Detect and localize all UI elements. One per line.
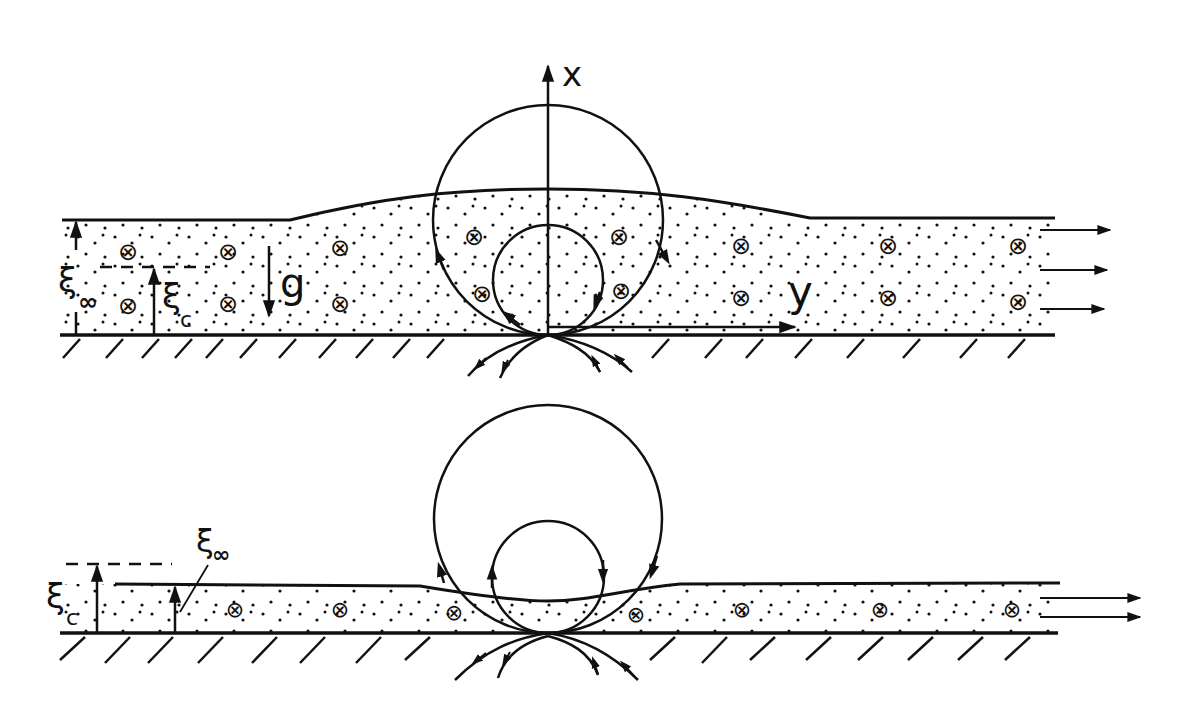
svg-text:⊗: ⊗	[1003, 597, 1021, 622]
x-axis-label: x	[562, 54, 582, 94]
xi-c-subscript: c	[66, 605, 78, 630]
svg-text:⊗: ⊗	[609, 223, 629, 251]
svg-text:⊗: ⊗	[731, 284, 751, 312]
svg-text:⊗: ⊗	[330, 290, 350, 318]
xi-inf-subscript: ∞	[78, 288, 98, 316]
streamline-arrow	[624, 665, 634, 676]
outer-circle-arrow-left	[440, 569, 444, 583]
svg-text:⊗: ⊗	[226, 597, 244, 622]
svg-text:⊗: ⊗	[445, 600, 463, 625]
svg-text:⊗: ⊗	[464, 223, 484, 251]
y-axis-label: y	[788, 267, 813, 316]
diagram-canvas: x y ⊗ ⊗ ⊗ ⊗ ⊗ ⊗ ⊗ ⊗	[0, 0, 1187, 713]
wall-hatching	[63, 339, 1025, 358]
svg-text:⊗: ⊗	[331, 597, 349, 622]
svg-text:⊗: ⊗	[627, 602, 645, 627]
svg-text:⊗: ⊗	[472, 280, 492, 308]
bottom-panel: ⊗ ⊗ ⊗ ⊗ ⊗ ⊗ ⊗ ξ c ξ ∞	[46, 405, 1140, 680]
svg-text:⊗: ⊗	[218, 290, 238, 318]
gravity-label: g	[280, 260, 305, 306]
svg-text:⊗: ⊗	[118, 292, 138, 320]
xi-c-subscript: c	[180, 307, 192, 332]
svg-text:⊗: ⊗	[118, 238, 138, 266]
svg-text:⊗: ⊗	[1008, 232, 1028, 260]
xi-c-label: ξ	[162, 276, 181, 316]
fluid-particles	[60, 185, 1060, 335]
wall-streamlines	[468, 335, 632, 378]
streamline-arrow	[478, 358, 486, 366]
svg-text:⊗: ⊗	[733, 597, 751, 622]
svg-text:⊗: ⊗	[330, 234, 350, 262]
streamline-arrow	[594, 360, 600, 372]
svg-text:⊗: ⊗	[611, 277, 631, 305]
svg-text:⊗: ⊗	[731, 232, 751, 260]
outer-streamline-circle	[434, 405, 662, 633]
svg-text:⊗: ⊗	[1008, 288, 1028, 316]
svg-text:⊗: ⊗	[218, 238, 238, 266]
svg-text:⊗: ⊗	[878, 284, 898, 312]
svg-text:⊗: ⊗	[878, 232, 898, 260]
svg-text:⊗: ⊗	[871, 597, 889, 622]
xi-inf-label: ξ	[58, 260, 77, 300]
wall-hatching	[60, 637, 1030, 663]
xi-inf-subscript: ∞	[212, 542, 230, 567]
fluid-particles	[60, 582, 1060, 634]
xi-c-label: ξ	[46, 576, 65, 616]
top-panel: x y ⊗ ⊗ ⊗ ⊗ ⊗ ⊗ ⊗ ⊗	[58, 54, 1110, 378]
